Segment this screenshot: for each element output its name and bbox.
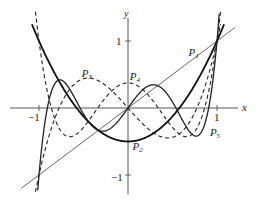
- series-label-p2: P2: [131, 140, 143, 154]
- series-label-p3: P3: [81, 67, 93, 81]
- x-axis-label: x: [241, 101, 247, 113]
- series-label-p1: P1: [188, 46, 199, 60]
- y-axis-label: y: [123, 8, 129, 19]
- series-label-p5: P5: [209, 126, 221, 140]
- series-labels: P1P2P3P4P5: [81, 46, 221, 154]
- y-tick-label-neg1: −1: [111, 171, 123, 183]
- series-label-subscript: 2: [139, 146, 143, 154]
- series-label-subscript: 4: [137, 76, 141, 84]
- series-label-subscript: 3: [87, 73, 92, 81]
- series-label-subscript: 5: [217, 132, 221, 140]
- legendre-polynomials-chart: x y 1 −1 −1 1 P1P2P3P4P5: [0, 0, 261, 202]
- axes: [10, 18, 238, 194]
- series-label-subscript: 1: [195, 52, 199, 60]
- x-tick-label-1: 1: [214, 111, 220, 123]
- series-label-p4: P4: [129, 70, 141, 84]
- x-tick-label-neg1: −1: [28, 111, 40, 123]
- y-tick-label-1: 1: [116, 35, 122, 47]
- series-p5-curve: [38, 14, 220, 191]
